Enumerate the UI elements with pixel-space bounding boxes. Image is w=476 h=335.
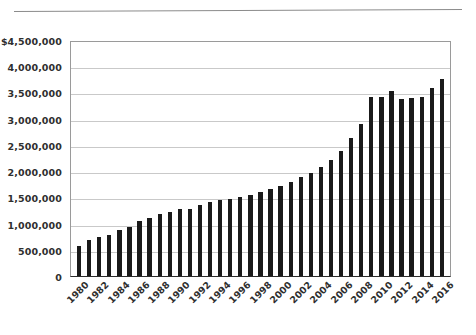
bar: [97, 237, 101, 276]
y-axis-tick-label: 0: [55, 272, 62, 283]
bar: [77, 246, 81, 276]
bar-slot: [316, 42, 326, 276]
bar-slot: [255, 42, 265, 276]
bar: [228, 199, 232, 276]
bar-slot: [114, 42, 124, 276]
bar-slot: [94, 42, 104, 276]
bar-slot: [84, 42, 94, 276]
bar: [238, 197, 242, 276]
y-axis-tick-label: 2,000,000: [8, 167, 62, 178]
bar-slot: [165, 42, 175, 276]
bar: [440, 79, 444, 276]
y-axis-tick-label: 3,000,000: [8, 114, 62, 125]
bar: [127, 227, 131, 276]
x-axis-tick-label: 1996: [227, 279, 253, 305]
bar-series: [71, 42, 450, 276]
x-axis-tick-label: 2000: [267, 279, 293, 305]
bar: [420, 97, 424, 276]
y-axis-tick-label: 3,500,000: [8, 88, 62, 99]
bar: [168, 212, 172, 277]
bar-slot: [195, 42, 205, 276]
x-axis-tick-label: 2002: [287, 279, 313, 305]
y-axis-tick-label: 500,000: [18, 245, 62, 256]
bar: [299, 177, 303, 276]
bar-chart: 0500,0001,000,0001,500,0002,000,0002,500…: [0, 0, 476, 335]
bar-slot: [437, 42, 447, 276]
bar-slot: [145, 42, 155, 276]
bar: [329, 160, 333, 276]
bar: [369, 97, 373, 276]
bar-slot: [346, 42, 356, 276]
bar-slot: [427, 42, 437, 276]
bar: [349, 138, 353, 276]
y-axis-tick-label: 1,500,000: [8, 193, 62, 204]
bar-slot: [124, 42, 134, 276]
bar: [268, 189, 272, 276]
bar-slot: [326, 42, 336, 276]
x-axis-tick-label: 2010: [369, 279, 395, 305]
bar-slot: [356, 42, 366, 276]
bar: [278, 186, 282, 276]
bar-slot: [417, 42, 427, 276]
x-axis-tick-label: 2004: [308, 279, 334, 305]
bar: [248, 195, 252, 276]
bar-slot: [104, 42, 114, 276]
bar: [389, 91, 393, 276]
bar-slot: [205, 42, 215, 276]
bar-slot: [245, 42, 255, 276]
bar-slot: [175, 42, 185, 276]
bar: [379, 97, 383, 276]
x-axis-tick-label: 2016: [429, 279, 455, 305]
bar: [319, 167, 323, 276]
y-axis-tick-label: 2,500,000: [8, 140, 62, 151]
bar: [158, 214, 162, 276]
bar: [289, 182, 293, 276]
bar: [178, 209, 182, 276]
bar: [359, 124, 363, 276]
x-axis-tick-label: 1986: [125, 279, 151, 305]
bar-slot: [265, 42, 275, 276]
bar-slot: [366, 42, 376, 276]
bar-slot: [235, 42, 245, 276]
bar: [117, 230, 121, 276]
bar-slot: [397, 42, 407, 276]
bar: [87, 240, 91, 276]
bar-slot: [376, 42, 386, 276]
bar: [430, 88, 434, 276]
x-axis-tick-label: 1994: [206, 279, 232, 305]
y-axis-tick-label: 4,000,000: [8, 62, 62, 73]
page-top-rule: [14, 9, 462, 12]
bar-slot: [336, 42, 346, 276]
bar-slot: [306, 42, 316, 276]
bar-slot: [286, 42, 296, 276]
bar: [147, 218, 151, 276]
x-axis: 1980198219841986198819901992199419961998…: [70, 279, 451, 331]
bar: [309, 173, 313, 276]
x-axis-tick-label: 1992: [186, 279, 212, 305]
bar: [258, 192, 262, 276]
x-axis-tick-label: 2014: [409, 279, 435, 305]
y-axis-tick-label: 1,000,000: [8, 219, 62, 230]
y-axis-tick-label: $4,500,000: [1, 36, 62, 47]
x-axis-tick-label: 2008: [348, 279, 374, 305]
bar-slot: [74, 42, 84, 276]
x-axis-tick-label: 1982: [85, 279, 111, 305]
x-axis-tick-label: 1984: [105, 279, 131, 305]
x-axis-tick-label: 1980: [64, 279, 90, 305]
bar-slot: [225, 42, 235, 276]
x-axis-tick-label: 1990: [166, 279, 192, 305]
bar-slot: [215, 42, 225, 276]
x-axis-tick-label: 1998: [247, 279, 273, 305]
bar: [188, 209, 192, 276]
bar-slot: [185, 42, 195, 276]
bar: [208, 202, 212, 276]
bar: [137, 221, 141, 276]
x-axis-tick-label: 2012: [389, 279, 415, 305]
bar: [218, 200, 222, 276]
bar: [198, 205, 202, 276]
x-axis-tick-label: 1988: [146, 279, 172, 305]
bar: [409, 98, 413, 276]
bar: [399, 99, 403, 276]
bar-slot: [155, 42, 165, 276]
bar: [339, 151, 343, 276]
